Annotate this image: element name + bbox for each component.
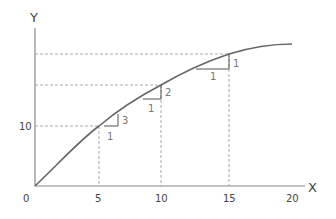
x-tick-15: 15 bbox=[223, 193, 236, 204]
x-axis-label: X bbox=[308, 180, 317, 195]
x-tick-10: 10 bbox=[155, 193, 168, 204]
run-label-2: 1 bbox=[148, 103, 154, 114]
guide-lines bbox=[35, 54, 229, 186]
rise-label-2: 2 bbox=[165, 87, 171, 98]
axes bbox=[35, 28, 305, 186]
curve bbox=[35, 44, 292, 186]
concave-curve-diagram: 3 1 2 1 1 1 Y X 0 5 10 15 20 10 bbox=[0, 0, 336, 219]
rise-label-1: 3 bbox=[122, 115, 128, 126]
y-axis-label: Y bbox=[29, 10, 38, 25]
x-tick-5: 5 bbox=[95, 193, 101, 204]
origin-label: 0 bbox=[23, 193, 29, 204]
x-tick-20: 20 bbox=[286, 193, 299, 204]
y-tick-10: 10 bbox=[19, 121, 32, 132]
run-label-1: 1 bbox=[107, 131, 113, 142]
rise-label-3: 1 bbox=[233, 58, 239, 69]
run-label-3: 1 bbox=[210, 71, 216, 82]
